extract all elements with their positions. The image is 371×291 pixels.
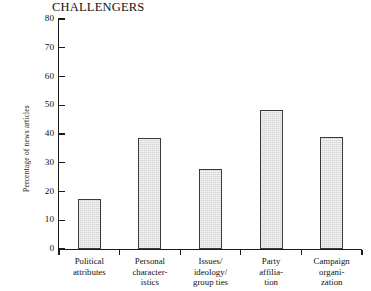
y-tick-label: 80 bbox=[28, 13, 54, 23]
bar bbox=[138, 138, 161, 249]
y-tick-label: 20 bbox=[28, 186, 54, 196]
x-category-label: Campaignorgani-zation bbox=[296, 256, 368, 288]
y-tick-label: 30 bbox=[28, 157, 54, 167]
x-category-label-line: zation bbox=[296, 277, 368, 288]
x-tick-mark bbox=[240, 250, 241, 255]
x-tick-mark bbox=[119, 250, 120, 255]
y-tick-label: 10 bbox=[28, 214, 54, 224]
plot-area bbox=[59, 19, 362, 249]
bar bbox=[260, 110, 283, 249]
x-category-label-line: organi- bbox=[296, 267, 368, 278]
bar bbox=[78, 199, 101, 249]
x-tick-mark bbox=[58, 250, 59, 255]
x-category-label-line: Campaign bbox=[296, 256, 368, 267]
y-tick-label: 0 bbox=[28, 243, 54, 253]
y-tick-label: 40 bbox=[28, 128, 54, 138]
y-tick-label: 70 bbox=[28, 42, 54, 52]
chart-title: CHALLENGERS bbox=[52, 0, 144, 15]
y-tick-label: 50 bbox=[28, 99, 54, 109]
x-tick-mark bbox=[180, 250, 181, 255]
x-tick-mark bbox=[361, 250, 362, 255]
y-axis-title: Percentage of news articles bbox=[22, 64, 31, 234]
x-tick-mark bbox=[301, 250, 302, 255]
y-tick-label: 60 bbox=[28, 71, 54, 81]
bar-chart-figure: CHALLENGERS Percentage of news articles … bbox=[0, 0, 371, 291]
bar bbox=[199, 169, 222, 250]
bar bbox=[320, 137, 343, 249]
